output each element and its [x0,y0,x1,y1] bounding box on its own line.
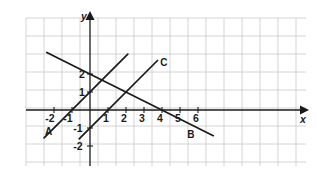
x-tick-label: 3 [139,112,145,124]
x-tick-label: -1 [63,112,72,124]
x-tick-label: 2 [121,112,127,124]
x-tick-label: 5 [175,112,181,124]
x-tick-label: -2 [45,112,54,124]
line-label-c: C [160,57,167,68]
line-label-a: A [45,126,52,137]
y-tick-label: -1 [73,122,82,134]
x-axis-name: x [299,113,307,125]
graph-screenshot: -2-112345621-1-2xyABC [0,0,317,177]
x-tick-label: 6 [193,112,199,124]
line-label-b: B [187,129,194,140]
y-tick-label: -2 [73,140,82,152]
figure-background [0,0,317,177]
coordinate-plane-figure: -2-112345621-1-2xyABC [0,0,317,177]
y-tick-label: 1 [79,86,85,98]
x-tick-label: 1 [103,112,109,124]
y-axis-name: y [80,10,88,22]
x-tick-label: 4 [157,112,163,124]
y-tick-label: 2 [79,68,85,80]
